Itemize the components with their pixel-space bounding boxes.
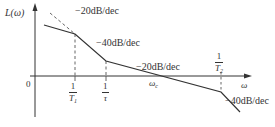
den-sub: 1: [74, 98, 77, 104]
slope-label-2: −40dB/dec: [96, 38, 140, 48]
slope-label-1: −20dB/dec: [75, 6, 119, 16]
y-axis-label: L(ω): [5, 8, 24, 18]
break-freq-T1: 1 T1: [69, 82, 77, 106]
origin-label: 0: [26, 79, 31, 89]
break-freq-T2: 1 T2: [215, 52, 223, 76]
break-freq-T1-den: T1: [69, 94, 77, 106]
slope-label-3: −20dB/dec: [136, 62, 180, 72]
x-axis-arrow-icon: [244, 74, 252, 79]
y-axis-arrow-icon: [33, 3, 38, 11]
crossover-label: ωc: [149, 78, 158, 91]
den-sub: 2: [220, 68, 223, 74]
break-freq-T1-num: 1: [70, 82, 77, 91]
crossover-sub: c: [155, 83, 158, 89]
slope-label-4: −40dB/dec: [225, 96, 269, 106]
x-axis-label: ω: [241, 80, 247, 90]
break-freq-tau-num: 1: [102, 82, 109, 91]
break-freq-tau: 1 τ: [102, 82, 109, 103]
break-freq-T2-den: T2: [215, 64, 223, 76]
break-freq-tau-den: τ: [104, 94, 107, 103]
break-freq-T2-num: 1: [216, 52, 223, 61]
